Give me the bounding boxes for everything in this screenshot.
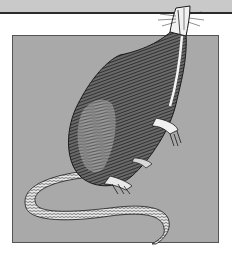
rat-illustration [0,0,232,263]
